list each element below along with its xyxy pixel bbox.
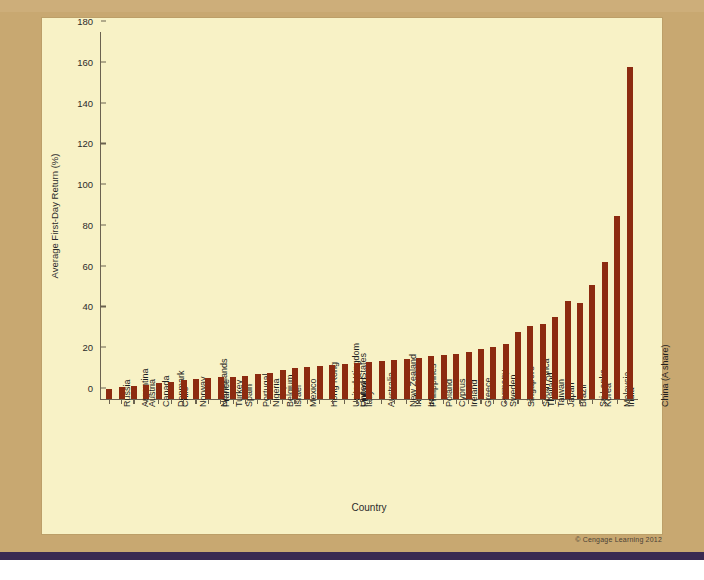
bar-column: Malaysia	[599, 32, 611, 399]
x-axis-tickmark	[443, 399, 444, 404]
chart-figure: Average First-Day Return (%) 02040608010…	[42, 18, 662, 534]
bar-series: RussiaArgentinaAustriaCanadaDenmarkChile…	[103, 32, 636, 399]
x-axis-tickmark	[319, 399, 320, 404]
x-axis-tickmark	[468, 399, 469, 404]
x-axis-tickmark	[456, 399, 457, 404]
x-axis-tickmark	[183, 399, 184, 404]
x-axis-tickmark	[171, 399, 172, 404]
bar-column: Canada	[140, 32, 152, 399]
x-axis-tickmark	[542, 399, 543, 404]
bar	[552, 317, 558, 399]
bar-column: Ireland	[450, 32, 462, 399]
bar-column: Chile	[165, 32, 177, 399]
x-axis-tickmark	[356, 399, 357, 404]
bar	[391, 360, 397, 399]
bar-column: Russia	[103, 32, 115, 399]
y-axis-tick: 100	[77, 179, 101, 190]
bar	[280, 370, 286, 399]
bar	[242, 376, 248, 399]
bar-column: Singapore	[500, 32, 512, 399]
bar-column: Argentina	[115, 32, 127, 399]
bar	[143, 385, 149, 399]
bar	[490, 347, 496, 399]
x-axis-tickmark	[245, 399, 246, 404]
bar	[478, 349, 484, 399]
bar	[255, 374, 261, 399]
bar-column: Spain	[227, 32, 239, 399]
x-axis-label: Country	[100, 502, 638, 513]
bar	[304, 367, 310, 399]
bar-column: Norway	[177, 32, 189, 399]
bar-column: Taiwan	[537, 32, 549, 399]
bar-column: Japan	[549, 32, 561, 399]
x-axis-tickmark	[133, 399, 134, 404]
bar-column: South Africa	[512, 32, 524, 399]
bar	[416, 358, 422, 399]
bar-column: Philippines	[400, 32, 412, 399]
y-axis-tick: 60	[82, 260, 101, 271]
bar-column: Australia	[363, 32, 375, 399]
x-axis-tickmark	[431, 399, 432, 404]
bar-column: Netherlands	[190, 32, 202, 399]
x-axis-tickmark	[282, 399, 283, 404]
bar-column: Turkey	[215, 32, 227, 399]
y-axis-label: Average First-Day Return (%)	[49, 154, 60, 279]
x-axis-tickmark	[146, 399, 147, 404]
bar-column: New Zealand	[376, 32, 388, 399]
page-top-band	[0, 0, 704, 12]
bar	[428, 356, 434, 399]
x-axis-tickmark	[294, 399, 295, 404]
x-axis-tickmark	[220, 399, 221, 404]
y-axis-tick: 180	[77, 16, 101, 27]
x-axis-tickmark	[381, 399, 382, 404]
x-axis-tickmark	[158, 399, 159, 404]
x-axis-tickmark	[579, 399, 580, 404]
bar	[466, 352, 472, 399]
bar	[453, 354, 459, 399]
x-axis-tickmark	[567, 399, 568, 404]
bar-column: Mexico	[289, 32, 301, 399]
bar	[379, 361, 385, 399]
bar	[119, 387, 125, 399]
x-axis-tick-label: China (A share)	[661, 344, 670, 407]
scanned-page: Average First-Day Return (%) 02040608010…	[0, 0, 704, 580]
x-axis-tickmark	[617, 399, 618, 404]
bar-column: Portugal	[239, 32, 251, 399]
bar-column: Sweden	[487, 32, 499, 399]
x-axis-tickmark	[121, 399, 122, 404]
bar	[230, 377, 236, 399]
bar-column: France	[202, 32, 214, 399]
bar	[106, 389, 112, 399]
x-axis-tickmark	[480, 399, 481, 404]
bar	[329, 365, 335, 399]
bar-column: Poland	[425, 32, 437, 399]
y-axis-tick: 20	[82, 342, 101, 353]
x-axis-tickmark	[332, 399, 333, 404]
bar-column: Belgium	[264, 32, 276, 399]
x-axis-tickmark	[555, 399, 556, 404]
bar	[503, 344, 509, 399]
x-axis-tickmark	[505, 399, 506, 404]
bar	[602, 262, 608, 399]
bar	[441, 355, 447, 399]
x-axis-tickmark	[109, 399, 110, 404]
bar	[267, 373, 273, 400]
x-axis-tickmark	[344, 399, 345, 404]
bar	[354, 363, 360, 399]
bar	[181, 380, 187, 399]
bar-column: India	[611, 32, 623, 399]
y-axis-tick: 160	[77, 56, 101, 67]
bar	[342, 364, 348, 399]
bar-column: Brazil	[561, 32, 573, 399]
copyright-notice: © Cengage Learning 2012	[0, 536, 662, 543]
bar	[565, 301, 571, 399]
x-axis-tickmark	[629, 399, 630, 404]
x-axis-tickmark	[493, 399, 494, 404]
bar-column: Austria	[128, 32, 140, 399]
y-axis-tick: 40	[82, 301, 101, 312]
bar-column: Denmark	[153, 32, 165, 399]
y-axis-tick: 80	[82, 219, 101, 230]
x-axis-tickmark	[530, 399, 531, 404]
x-axis-tickmark	[406, 399, 407, 404]
bar-column: China (A share)	[623, 32, 635, 399]
